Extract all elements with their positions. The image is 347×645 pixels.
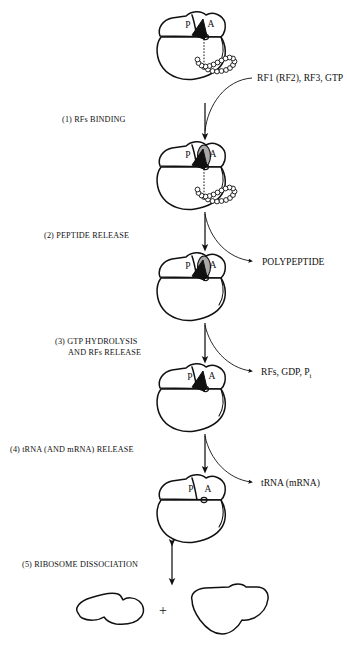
trna-outflow-arrow xyxy=(205,436,251,482)
large-subunit-shape xyxy=(192,584,269,634)
a-site-label-3: A xyxy=(210,260,217,270)
a-site-label-4: A xyxy=(209,371,216,381)
product-polypeptide-label: POLYPEPTIDE xyxy=(262,256,325,267)
a-site-label-2: A xyxy=(210,149,217,159)
plus-sign: + xyxy=(159,603,167,618)
step-5-label: (5) RIBOSOME DISSOCIATION xyxy=(22,560,138,569)
p-site-label-1: P xyxy=(185,20,190,30)
product-rfs-gdp-pi-label: RFs, GDP, Pi xyxy=(261,366,312,379)
step-1-label: (1) RFs BINDING xyxy=(62,115,126,124)
reactant-inflow-arrow xyxy=(205,78,252,131)
step-4-label: (4) tRNA (AND mRNA) RELEASE xyxy=(10,445,134,454)
step-3-label-line1: (3) GTP HYDROLYSIS xyxy=(55,337,138,346)
product-trna-mrna-label: tRNA (mRNA) xyxy=(261,477,320,489)
a-site-label-5: A xyxy=(205,484,212,494)
step-3-label-line2: AND RFs RELEASE xyxy=(68,348,141,357)
p-site-label-3: P xyxy=(185,261,190,271)
termination-pathway-diagram: P A RF1 (RF2), RF3, GTP (1) RFs BINDING … xyxy=(0,0,347,645)
stage-5-ribosome-empty: P A xyxy=(157,475,225,543)
stage-3-ribosome-complex: P A xyxy=(157,253,225,321)
rfs-outflow-arrow xyxy=(205,325,251,371)
p-site-label-4: P xyxy=(187,372,192,382)
stage-4-ribosome-complex: P A xyxy=(157,364,225,432)
p-site-label-5: P xyxy=(188,484,193,494)
a-site-label-1: A xyxy=(208,19,215,29)
stage-1-ribosome-complex: P A xyxy=(157,12,237,80)
stage-2-ribosome-complex: P A xyxy=(157,142,237,210)
small-subunit-shape xyxy=(77,593,144,624)
p-site-label-2: P xyxy=(185,150,190,160)
step-2-label: (2) PEPTIDE RELEASE xyxy=(44,231,129,240)
reactant-rfs-label: RF1 (RF2), RF3, GTP xyxy=(257,72,343,84)
